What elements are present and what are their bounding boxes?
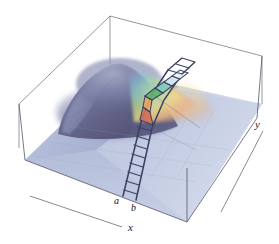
y-axis-label: y	[255, 119, 260, 130]
figure-root: x y a b	[0, 0, 279, 244]
point-a-label: a	[114, 196, 119, 206]
point-b-label: b	[131, 203, 136, 213]
surface-mesh	[25, 58, 262, 222]
x-axis-rule	[30, 196, 122, 227]
ladder-rail-left-top	[168, 58, 182, 70]
ladder-rung-top	[182, 58, 195, 62]
x-axis-label: x	[128, 222, 133, 233]
rainbow-glow-orange	[172, 98, 212, 122]
ladder-rail-right-top	[182, 62, 195, 74]
surface-plot-svg	[0, 0, 279, 244]
